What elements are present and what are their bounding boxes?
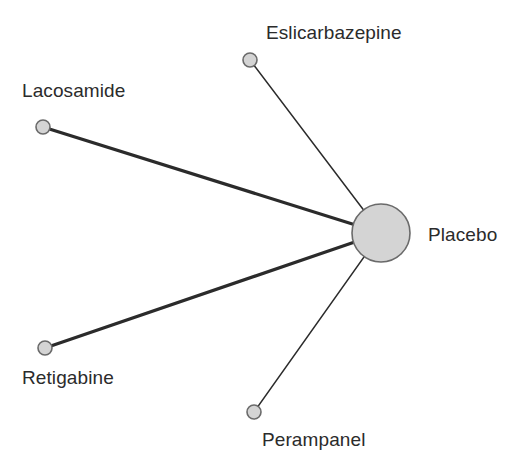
network-plot-figure: PlaceboLacosamideEslicarbazepineRetigabi… <box>0 0 522 473</box>
edge-retigabine-placebo[interactable] <box>45 233 381 348</box>
edge-lacosamide-placebo[interactable] <box>43 127 381 233</box>
node-perampanel[interactable] <box>247 405 261 419</box>
node-label-eslicarbazepine: Eslicarbazepine <box>266 22 402 44</box>
nodes-group <box>36 53 410 419</box>
node-retigabine[interactable] <box>38 341 52 355</box>
node-lacosamide[interactable] <box>36 120 50 134</box>
edges-group <box>43 60 381 412</box>
node-placebo[interactable] <box>352 204 410 262</box>
node-label-lacosamide: Lacosamide <box>22 80 125 102</box>
node-label-retigabine: Retigabine <box>22 367 114 389</box>
edge-eslicarbazepine-placebo[interactable] <box>250 60 381 233</box>
edge-perampanel-placebo[interactable] <box>254 233 381 412</box>
node-label-perampanel: Perampanel <box>262 429 365 451</box>
node-label-placebo: Placebo <box>428 224 497 246</box>
node-eslicarbazepine[interactable] <box>243 53 257 67</box>
